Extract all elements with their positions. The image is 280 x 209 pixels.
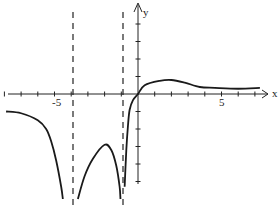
curve-branch-0 — [6, 112, 63, 200]
curve-branch-2 — [125, 80, 260, 187]
function-graph: x y -5 5 — [0, 0, 280, 209]
tick-label-neg5: -5 — [52, 96, 62, 108]
tick-label-pos5: 5 — [219, 96, 225, 108]
x-axis-label: x — [272, 87, 278, 99]
graph-figure: x y -5 5 — [0, 0, 280, 209]
y-axis-label: y — [143, 6, 149, 18]
curve-branch-1 — [78, 144, 121, 199]
